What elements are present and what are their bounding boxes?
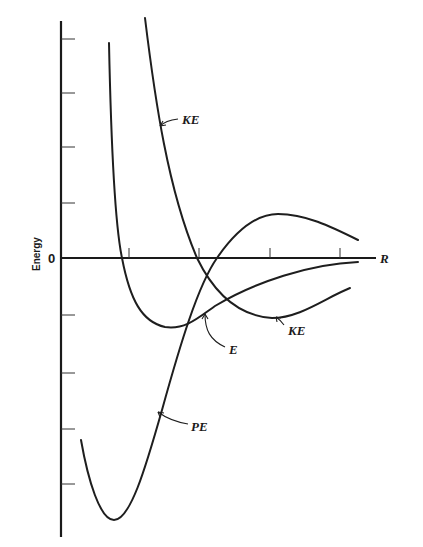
x-axis-label: R [379, 251, 389, 266]
e-curve [109, 43, 358, 327]
x-ticks [129, 248, 340, 258]
ke-bottom-label: KE [287, 323, 306, 338]
energy-chart: Energy 0 R KE KE E PE [0, 0, 423, 547]
e-label: E [228, 342, 238, 357]
pe-label: PE [191, 419, 208, 434]
ke-curve [145, 18, 350, 318]
y-axis-label: Energy [31, 237, 42, 271]
pe-arrow [158, 412, 188, 424]
y-ticks [61, 39, 75, 484]
zero-tick-label: 0 [48, 251, 55, 266]
ke-top-label: KE [181, 112, 200, 127]
